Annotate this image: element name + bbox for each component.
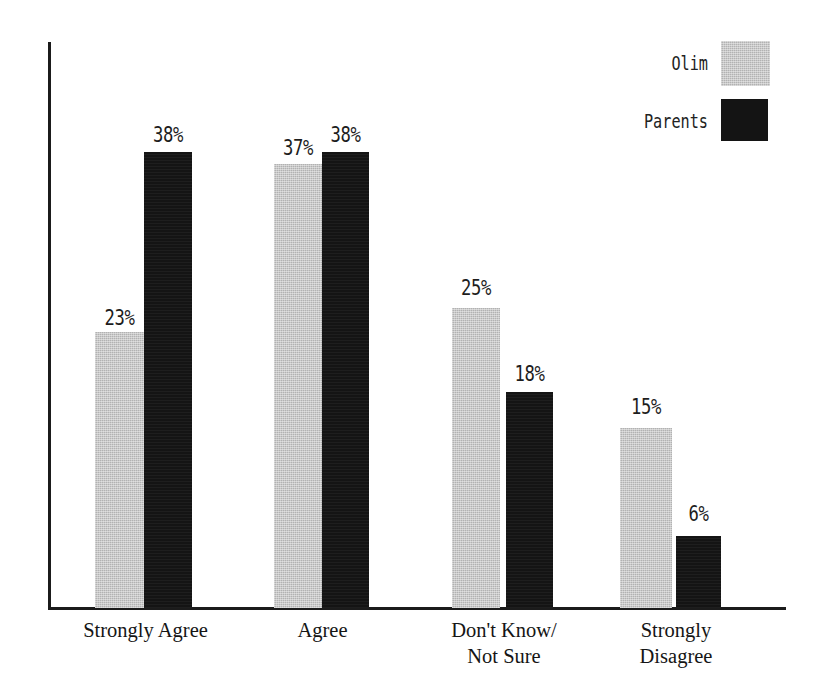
x-tick-label-dont-know: Don't Know/ Not Sure (420, 617, 588, 669)
x-tick-label-strongly-disagree: Strongly Disagree (592, 617, 760, 669)
bar-olim-dont-know (452, 308, 500, 608)
bar-olim-strongly-agree (95, 332, 144, 608)
bar-olim-strongly-disagree (620, 428, 672, 608)
bar-parents-dont-know (506, 392, 553, 608)
value-label-parents-strongly-disagree: 6% (680, 502, 717, 526)
value-label-olim-agree: 37% (278, 136, 317, 160)
bar-chart: 23% 38% 37% 38% 25% 18% 15% 6% Strongly … (0, 0, 815, 689)
legend-label-parents: Parents (590, 110, 708, 132)
legend-swatch-parents (721, 99, 768, 141)
legend-swatch-olim (721, 41, 770, 86)
bar-parents-agree (322, 152, 369, 608)
value-label-parents-strongly-agree: 38% (148, 123, 187, 147)
bar-parents-strongly-agree (144, 152, 192, 608)
x-tick-label-agree: Agree (240, 617, 405, 643)
legend-label-olim: Olim (590, 52, 708, 74)
bar-parents-strongly-disagree (676, 536, 721, 608)
bar-olim-agree (274, 164, 322, 608)
value-label-olim-strongly-disagree: 15% (625, 395, 668, 419)
value-label-parents-dont-know: 18% (510, 362, 549, 386)
value-label-olim-dont-know: 25% (456, 276, 495, 300)
x-tick-label-strongly-agree: Strongly Agree (63, 617, 228, 643)
value-label-olim-strongly-agree: 23% (99, 306, 139, 330)
y-axis-line (48, 42, 51, 610)
value-label-parents-agree: 38% (326, 123, 365, 147)
